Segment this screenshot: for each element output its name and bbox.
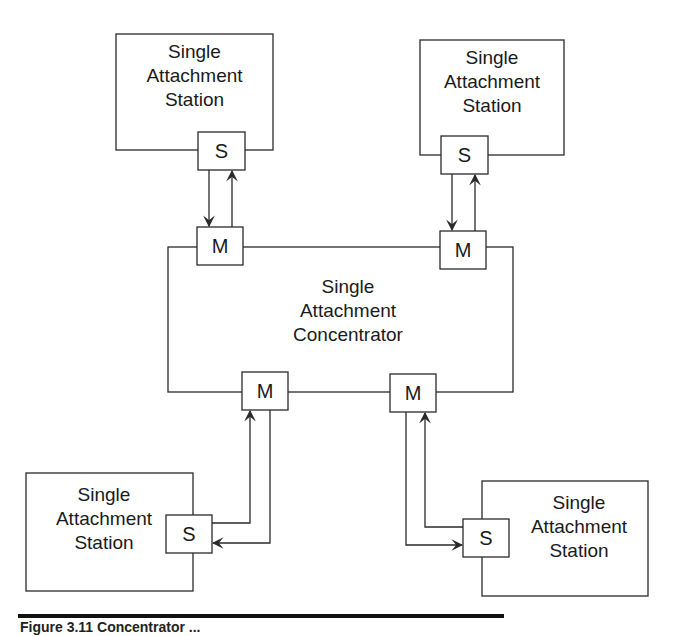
- label-line: Station: [116, 88, 273, 112]
- concentrator-label: Single Attachment Concentrator: [268, 275, 428, 347]
- label-line: Single: [420, 46, 564, 70]
- port-s-bottom-right: S: [463, 519, 509, 557]
- label-line: Attachment: [420, 70, 564, 94]
- station-label-top-right: Single Attachment Station: [420, 46, 564, 118]
- port-m-bottom-right: M: [390, 374, 436, 412]
- port-m-top-right: M: [440, 231, 486, 269]
- port-m-bottom-left: M: [242, 372, 288, 410]
- label-line: Single: [116, 40, 273, 64]
- label-line: Attachment: [116, 64, 273, 88]
- label-line: Station: [510, 539, 648, 563]
- label-line: Attachment: [510, 515, 648, 539]
- label-line: Single: [268, 275, 428, 299]
- figure-caption: Figure 3.11 Concentrator ...: [20, 619, 201, 635]
- caption-rule: [18, 614, 504, 618]
- label-line: Single: [510, 491, 648, 515]
- link-bottom-left-up: [212, 411, 250, 523]
- label-line: Station: [36, 531, 172, 555]
- label-line: Attachment: [268, 299, 428, 323]
- station-label-top-left: Single Attachment Station: [116, 40, 273, 112]
- label-line: Single: [36, 483, 172, 507]
- station-label-bottom-right: Single Attachment Station: [510, 491, 648, 563]
- station-label-bottom-left: Single Attachment Station: [36, 483, 172, 555]
- port-m-top-left: M: [197, 227, 243, 265]
- link-bottom-right-return: [406, 412, 462, 545]
- label-line: Concentrator: [268, 323, 428, 347]
- port-s-top-right: S: [441, 136, 488, 174]
- label-line: Attachment: [36, 507, 172, 531]
- port-s-bottom-left: S: [166, 515, 212, 553]
- port-s-top-left: S: [198, 132, 245, 170]
- link-bottom-right-up: [425, 413, 463, 527]
- label-line: Station: [420, 94, 564, 118]
